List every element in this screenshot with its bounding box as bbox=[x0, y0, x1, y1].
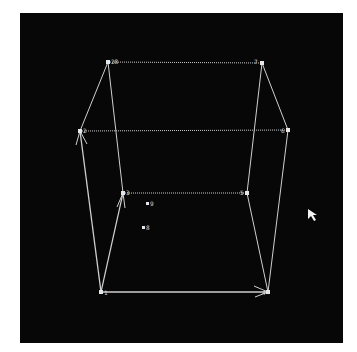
vertex-label: 2 bbox=[83, 127, 87, 134]
edge-top bbox=[108, 62, 262, 63]
edge-right-lower bbox=[247, 193, 268, 292]
vertex-label: 6 bbox=[281, 127, 285, 134]
vertex-label: 5 bbox=[240, 189, 244, 196]
mouse-cursor-icon bbox=[308, 209, 317, 221]
wireframe-cube: 28 7 2 6 3 5 1 4 9 8 bbox=[0, 0, 357, 352]
point-marker bbox=[146, 202, 149, 205]
edge-right-outer bbox=[268, 130, 288, 292]
vertex-marker bbox=[245, 191, 249, 195]
vertex-marker bbox=[78, 129, 82, 133]
vertex-marker bbox=[286, 128, 290, 132]
vertex-marker bbox=[266, 290, 270, 294]
vertex-label: 1 bbox=[104, 289, 108, 296]
edge-right-upper bbox=[262, 63, 288, 130]
vertex-label: 4 bbox=[262, 289, 266, 296]
point-label: 8 bbox=[146, 224, 150, 231]
edge-left-lower bbox=[101, 193, 123, 292]
vertex-label: 7 bbox=[254, 58, 258, 65]
edge-right-inner bbox=[247, 63, 262, 193]
vertex-label: 28 bbox=[111, 58, 119, 65]
vertex-marker bbox=[99, 290, 103, 294]
vertex-marker bbox=[106, 60, 110, 64]
vertex-label: 3 bbox=[126, 189, 130, 196]
edge-left-upper bbox=[80, 62, 108, 131]
vertex-marker bbox=[260, 61, 264, 65]
edge-left-inner bbox=[108, 62, 123, 193]
point-marker bbox=[142, 226, 145, 229]
edge-left-outer bbox=[80, 131, 101, 292]
point-label: 9 bbox=[150, 200, 154, 207]
vertex-marker bbox=[121, 191, 125, 195]
edge-middle bbox=[80, 130, 288, 131]
